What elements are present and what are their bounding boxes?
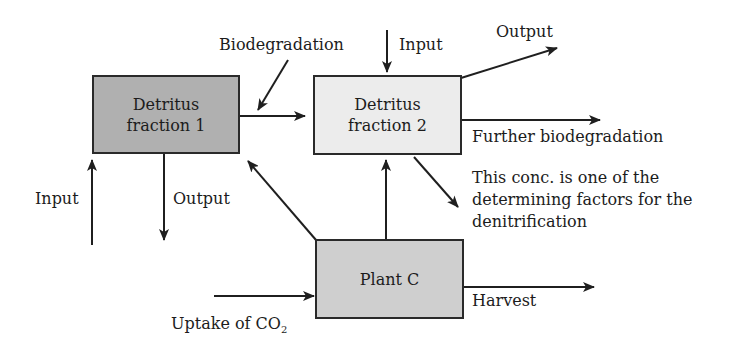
note-line-1: This conc. is one of the (472, 167, 693, 189)
detritus-fraction-2-box: Detritus fraction 2 (313, 75, 462, 155)
uptake-co2-subscript: 2 (281, 324, 287, 335)
note-line-2: determining factors for the (472, 189, 693, 211)
biodegradation-label: Biodegradation (219, 35, 344, 55)
output-top-arrow (461, 48, 557, 78)
detritus-1-line2: fraction 1 (127, 115, 206, 136)
further-biodegradation-label: Further biodegradation (472, 127, 663, 147)
plant-c-label: Plant C (360, 269, 419, 290)
detritus-1-line1: Detritus (127, 94, 206, 115)
note-arrow (414, 157, 458, 207)
harvest-label: Harvest (472, 291, 536, 311)
input-left-label: Input (35, 189, 79, 209)
detritus-2-line1: Detritus (348, 94, 427, 115)
plant-c-box: Plant C (315, 239, 464, 319)
output-top-label: Output (496, 22, 553, 42)
uptake-co2-label: Uptake of CO2 (171, 314, 287, 340)
denitrification-note: This conc. is one of the determining fac… (472, 167, 693, 233)
detritus-fraction-1-box: Detritus fraction 1 (92, 75, 240, 154)
input-top-label: Input (399, 35, 443, 55)
plant-to-d1-arrow (248, 161, 316, 240)
output-left-label: Output (173, 189, 230, 209)
uptake-co2-text: Uptake of CO (171, 314, 281, 333)
detritus-2-line2: fraction 2 (348, 115, 427, 136)
biodegradation-arrow (258, 60, 288, 110)
note-line-3: denitrification (472, 211, 693, 233)
